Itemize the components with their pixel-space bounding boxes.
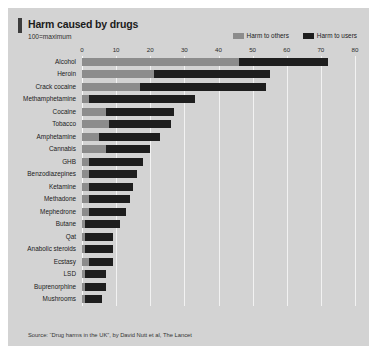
bar-segment-harm-to-users [106,108,174,116]
x-tick-label: 40 [215,46,222,53]
source-note: Source: “Drug harms in the UK”, by David… [28,332,192,338]
bar-segment-harm-to-users [89,170,137,178]
bar-segment-harm-to-others [82,145,106,153]
category-label: Butane [56,219,76,228]
x-tick-label: 80 [352,46,359,53]
bar-segment-harm-to-others [82,133,99,141]
bar-row: Methadone [82,195,355,203]
bar-segment-harm-to-users [89,208,127,216]
category-label: Anabolic steroids [27,244,76,253]
bar-segment-harm-to-users [154,70,270,78]
chart-card: Harm caused by drugs 100=maximum Harm to… [8,8,369,346]
bar-segment-harm-to-users [85,270,105,278]
category-label: Amphetamine [37,132,76,141]
bar-segment-harm-to-users [85,283,105,291]
bar-segment-harm-to-others [82,108,106,116]
category-label: Crack cocaine [36,82,77,91]
bar-segment-harm-to-others [82,158,89,166]
bar-row: Alcohol [82,58,355,66]
bar-segment-harm-to-users [140,83,266,91]
bar-segment-harm-to-users [89,95,195,103]
category-label: Buprenorphine [34,282,76,291]
category-label: Methamphetamine [23,94,76,103]
bar-row: Amphetamine [82,133,355,141]
bar-segment-harm-to-others [82,208,89,216]
bar-segment-harm-to-users [99,133,160,141]
bar-segment-harm-to-users [89,158,144,166]
bar-segment-harm-to-users [85,295,102,303]
bar-row: Butane [82,220,355,228]
bar-segment-harm-to-users [239,58,328,66]
category-label: Mephedrone [40,207,76,216]
category-label: Cocaine [53,107,76,116]
x-tick-label: 30 [181,46,188,53]
plot-area: AlcoholHeroinCrack cocaineMethamphetamin… [82,56,355,306]
bar-segment-harm-to-others [82,83,140,91]
bar-segment-harm-to-others [82,258,89,266]
bar-row: Methamphetamine [82,95,355,103]
category-label: Heroin [57,69,76,78]
category-label: Ecstasy [54,257,76,266]
category-label: Tobacco [52,119,76,128]
bar-row: Mephedrone [82,208,355,216]
x-tick-label: 0 [80,46,83,53]
category-label: Ketamine [49,182,76,191]
bar-segment-harm-to-users [89,258,113,266]
page-title: Harm caused by drugs [28,18,359,31]
chart-header: Harm caused by drugs 100=maximum Harm to… [8,8,369,41]
bar-row: Tobacco [82,120,355,128]
bar-segment-harm-to-others [82,58,239,66]
legend-item-harm-to-others: Harm to others [233,32,289,39]
bar-row: GHB [82,158,355,166]
bar-row: Crack cocaine [82,83,355,91]
bar-segment-harm-to-others [82,183,89,191]
legend-item-harm-to-users: Harm to users [303,32,357,39]
x-tick-label: 50 [249,46,256,53]
category-label: Benzodiazepines [27,169,76,178]
accent-rule [18,18,22,33]
bar-row: LSD [82,270,355,278]
bar-row: Anabolic steroids [82,245,355,253]
bar-segment-harm-to-users [85,245,112,253]
x-tick-label: 20 [147,46,154,53]
legend-swatch-users [303,33,314,39]
category-label: Qat [66,232,76,241]
x-tick-label: 60 [283,46,290,53]
bar-row: Heroin [82,70,355,78]
bar-segment-harm-to-others [82,120,109,128]
bar-row: Cannabis [82,145,355,153]
legend-label-others: Harm to others [247,32,289,39]
bar-row: Buprenorphine [82,283,355,291]
x-tick-label: 70 [317,46,324,53]
bar-segment-harm-to-users [106,145,150,153]
bar-segment-harm-to-users [89,195,130,203]
bar-segment-harm-to-others [82,95,89,103]
bar-segment-harm-to-others [82,170,89,178]
bar-segment-harm-to-users [85,220,119,228]
plot-wrapper: 01020304050607080 AlcoholHeroinCrack coc… [8,46,369,306]
bar-row: Ketamine [82,183,355,191]
bar-series: AlcoholHeroinCrack cocaineMethamphetamin… [82,56,355,306]
bar-segment-harm-to-users [109,120,170,128]
category-label: LSD [64,269,76,278]
category-label: Cannabis [49,144,76,153]
bar-row: Ecstasy [82,258,355,266]
bar-segment-harm-to-others [82,195,89,203]
gridline [355,56,356,306]
category-label: Methadone [44,194,76,203]
bar-row: Qat [82,233,355,241]
legend-label-users: Harm to users [317,32,357,39]
category-label: Mushrooms [43,294,76,303]
bar-row: Benzodiazepines [82,170,355,178]
category-label: Alcohol [55,57,76,66]
chart-legend: Harm to others Harm to users [233,32,357,39]
bar-segment-harm-to-users [89,183,133,191]
bar-row: Mushrooms [82,295,355,303]
category-label: GHB [62,157,76,166]
x-axis-tick-labels: 01020304050607080 [82,46,355,56]
x-tick-label: 10 [113,46,120,53]
bar-segment-harm-to-users [85,233,112,241]
bar-segment-harm-to-others [82,70,154,78]
legend-swatch-others [233,33,244,39]
bar-row: Cocaine [82,108,355,116]
